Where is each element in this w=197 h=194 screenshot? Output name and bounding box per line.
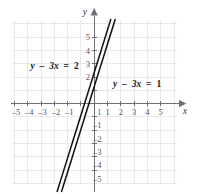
x-tick-label: 4 xyxy=(145,107,150,117)
coordinate-plane-svg: –5 –4 –3 –2 –1 1 2 3 4 5 5 4 3 2 1 –1 –2… xyxy=(0,0,197,194)
graph-figure: –5 –4 –3 –2 –1 1 2 3 4 5 5 4 3 2 1 –1 –2… xyxy=(0,0,197,194)
y-tick-label: 1 xyxy=(97,107,101,117)
x-tick-label: 2 xyxy=(119,107,123,117)
equation-left-equals: = xyxy=(64,61,69,71)
y-tick-label: –2 xyxy=(92,134,102,144)
y-axis-label: y xyxy=(82,6,88,17)
equation-left-rhs: 2 xyxy=(74,61,79,71)
y-tick-label: –3 xyxy=(92,147,102,157)
x-tick-label: –4 xyxy=(24,107,34,117)
x-tick-label: –1 xyxy=(64,107,74,117)
x-axis-label: x xyxy=(182,105,188,116)
y-tick-label: 3 xyxy=(86,59,90,69)
equation-left-var-y: y xyxy=(30,61,36,71)
x-tick-label: 3 xyxy=(132,107,136,117)
equation-right-equals: = xyxy=(146,79,151,89)
x-tick-label: 1 xyxy=(105,107,109,117)
equation-right-var-y: y xyxy=(112,79,118,89)
x-tick-label: –3 xyxy=(37,107,47,117)
equation-left-coef-term: 3x xyxy=(48,61,59,71)
y-tick-label: –4 xyxy=(92,160,102,170)
y-tick-label: 5 xyxy=(86,32,90,42)
equation-right-coef-term: 3x xyxy=(131,79,142,89)
y-tick-label: 2 xyxy=(86,72,90,82)
equation-right-rhs: 1 xyxy=(156,79,161,89)
equation-right-operator: – xyxy=(121,79,127,89)
y-tick-label: –1 xyxy=(92,120,102,130)
equation-left-operator: – xyxy=(39,61,45,71)
x-tick-label: 5 xyxy=(159,107,163,117)
x-tick-label: –5 xyxy=(11,107,21,117)
x-tick-label: –2 xyxy=(51,107,61,117)
y-tick-label: –5 xyxy=(92,174,102,184)
